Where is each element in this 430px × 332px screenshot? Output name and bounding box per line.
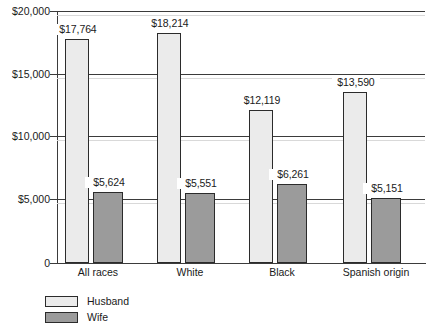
plot-area: $17,764 $5,624 $18,214 $5,551 $12,119 $6…: [57, 11, 425, 263]
x-axis-line: [57, 263, 426, 264]
x-axis-label-white: White: [153, 266, 227, 278]
legend-item-wife: Wife: [45, 311, 245, 327]
bar-wife-all-races: [93, 192, 123, 263]
y-axis-tick-mark-0: [50, 263, 57, 264]
chart-legend: Husband Wife: [45, 295, 245, 327]
gridline-20000-shadow: [57, 15, 425, 16]
bar-husband-all-races: [65, 39, 89, 263]
y-axis-tick-mark-5000: [50, 199, 57, 200]
value-label-husband-white: $18,214: [146, 18, 194, 29]
bar-wife-white: [185, 193, 215, 263]
y-axis-tick-label-20000: $20,000: [0, 6, 50, 17]
bar-husband-black: [249, 110, 273, 263]
value-label-husband-black: $12,119: [238, 95, 286, 106]
y-axis-tick-label-10000: $10,000: [0, 131, 50, 142]
y-axis-tick-label-5000: $5,000: [0, 194, 50, 205]
legend-item-husband: Husband: [45, 295, 245, 311]
legend-swatch-wife: [45, 312, 78, 323]
x-axis-label-all-races: All races: [61, 266, 135, 278]
value-label-wife-white: $5,551: [177, 178, 225, 189]
x-axis-label-spanish-origin: Spanish origin: [333, 266, 419, 278]
y-axis-tick-mark-15000: [50, 74, 57, 75]
y-axis-tick-label-0: 0: [0, 258, 50, 269]
legend-label-wife: Wife: [87, 311, 108, 324]
value-label-wife-black: $6,261: [269, 169, 317, 180]
value-label-husband-all-races: $17,764: [54, 24, 102, 35]
y-axis-tick-mark-10000: [50, 136, 57, 137]
x-axis-label-black: Black: [245, 266, 319, 278]
y-axis-tick-mark-20000: [50, 11, 57, 12]
value-label-wife-spanish-origin: $5,151: [363, 183, 411, 194]
gridline-15000: [57, 74, 425, 75]
bar-chart: $20,000 $15,000 $10,000 $5,000 0 $17,76: [0, 0, 430, 332]
bar-husband-white: [157, 33, 181, 263]
gridline-10000: [57, 136, 425, 137]
gridline-10000-shadow: [57, 140, 425, 141]
value-label-husband-spanish-origin: $13,590: [332, 77, 380, 88]
bar-wife-spanish-origin: [371, 198, 401, 263]
bar-husband-spanish-origin: [343, 92, 367, 263]
legend-swatch-husband: [45, 296, 78, 307]
y-axis-tick-label-15000: $15,000: [0, 69, 50, 80]
gridline-20000: [57, 11, 425, 12]
bar-wife-black: [277, 184, 307, 263]
legend-label-husband: Husband: [87, 295, 129, 308]
value-label-wife-all-races: $5,624: [85, 177, 133, 188]
